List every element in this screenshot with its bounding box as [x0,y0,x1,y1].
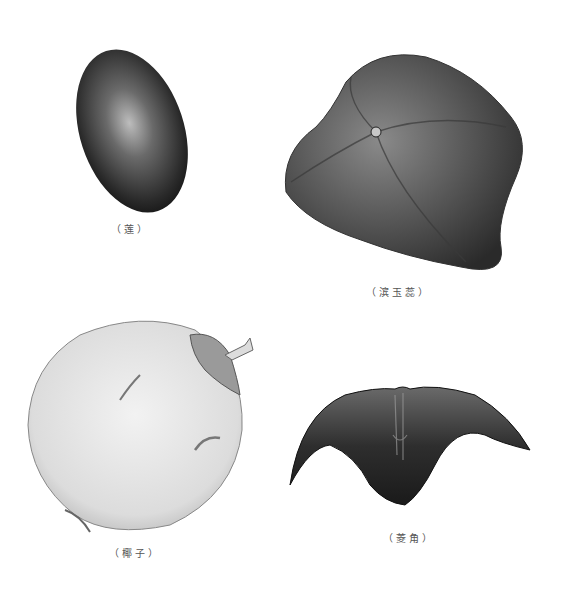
water-caltrop-caption: （菱角） [383,530,435,545]
coconut-caption: （椰子） [109,545,161,560]
illustration-plate: （莲） （滨玉蕊） [0,0,563,593]
barringtonia-fruit-illustration [276,42,536,282]
lotus-caption: （莲） [111,221,150,236]
coconut-illustration [20,310,260,540]
barringtonia-caption: （滨玉蕊） [366,284,431,299]
lotus-seed-illustration [70,45,200,220]
water-caltrop-illustration [285,375,535,520]
